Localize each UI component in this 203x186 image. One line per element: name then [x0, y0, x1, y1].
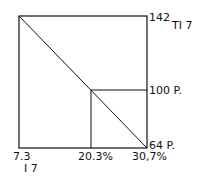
bottom-left-tag: I 7 — [24, 163, 38, 174]
bottom-right-axis-value: 30,7% — [132, 151, 167, 162]
top-right-value: 142 — [149, 12, 170, 23]
top-right-tag: TI 7 — [172, 20, 192, 31]
bottom-left-value: 7.3 — [13, 151, 31, 162]
diagonal-line — [19, 16, 147, 148]
mid-right-value: 100 P. — [149, 85, 182, 96]
bottom-mid-value: 20.3% — [78, 151, 113, 162]
